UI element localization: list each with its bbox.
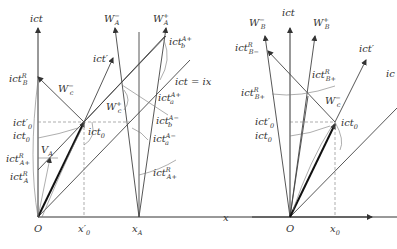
- arc-left-axis: [33, 80, 38, 217]
- label-ict-prime: ict′: [93, 53, 109, 64]
- label-WB-plus: W+B: [313, 16, 330, 31]
- arc-ict0: [38, 128, 78, 138]
- label-ict-a-Aplus: ictA+a: [158, 91, 181, 106]
- label-origin-right: O: [286, 223, 294, 234]
- arc-vector: [42, 125, 84, 217]
- label-origin: O: [34, 223, 42, 234]
- label-Wc-minus: W−c: [58, 82, 74, 97]
- label-x-axis: x: [223, 212, 229, 223]
- label-ict-Bplus-R-left: ictRB+: [241, 86, 265, 101]
- label-ict-Aplus-R-right: ictRA+: [153, 166, 177, 181]
- label-Wc-plus: W+c: [106, 100, 122, 115]
- label-WA-plus: W+A: [153, 12, 169, 27]
- label-ict0-left-right: ict0: [255, 130, 272, 144]
- label-ict0-right: ict0: [88, 126, 105, 140]
- spacetime-diagrams: ict W−A W+A ictA+b ict′ ictRB W−c ict = …: [0, 0, 397, 249]
- ict-prime-axis-right: [335, 60, 366, 122]
- ict-prime-axis: [84, 58, 113, 122]
- arc-ict0-right-diag: [290, 126, 330, 136]
- label-ict-a-Aminus: ictA−a: [153, 132, 176, 147]
- label-ict-prime-right: ict′: [359, 43, 375, 54]
- label-WA-minus: W−A: [104, 12, 120, 27]
- left-diagram: ict W−A W+A ictA+b ict′ ictRB W−c ict = …: [6, 12, 372, 237]
- right-diagram: ict W−B W+B ictRB− ict′ ic ictRB+ ictRB+…: [235, 7, 397, 237]
- label-ic-cut: ic: [386, 68, 395, 79]
- arc-ict-a-Aminus: [132, 128, 148, 140]
- label-ict-Bplus-R-upper: ictRB+: [312, 68, 336, 83]
- label-WB-minus: W−B: [249, 16, 266, 31]
- label-Wc-minus-right: W−c: [325, 94, 341, 109]
- label-ict0-prime-right: ict′0: [255, 116, 274, 130]
- label-ict0-right-right: ict0: [341, 117, 358, 131]
- label-ict-b-Aplus: ictA+b: [169, 35, 192, 50]
- label-xA: xA: [132, 223, 143, 237]
- label-ict-b-Aminus: ictA−b: [156, 114, 179, 129]
- label-ict: ict: [30, 13, 44, 24]
- label-ict-Aplus-R: ictRA+: [6, 152, 30, 167]
- label-ict-eq-ix: ict = ix: [175, 76, 212, 87]
- arc-ict-Bplus-R: [272, 86, 335, 95]
- label-ict-right: ict: [282, 7, 296, 18]
- label-ict-A-R: ictRA: [10, 170, 29, 185]
- VA-vector: [38, 158, 50, 217]
- label-ict-B-R: ictRB: [9, 72, 28, 87]
- label-x0-prime: x′0: [78, 223, 90, 237]
- label-ict-Bminus-R: ictRB−: [235, 41, 259, 56]
- Wc-minus-line-right: [268, 51, 335, 122]
- label-ict0-prime: ict′0: [13, 117, 32, 131]
- vector-O-ict0: [38, 122, 84, 217]
- label-ict0-left: ict0: [13, 130, 30, 144]
- label-x0-right: x0: [330, 223, 340, 237]
- worldline-WA-minus: [115, 28, 139, 217]
- label-VA: VA: [41, 144, 53, 158]
